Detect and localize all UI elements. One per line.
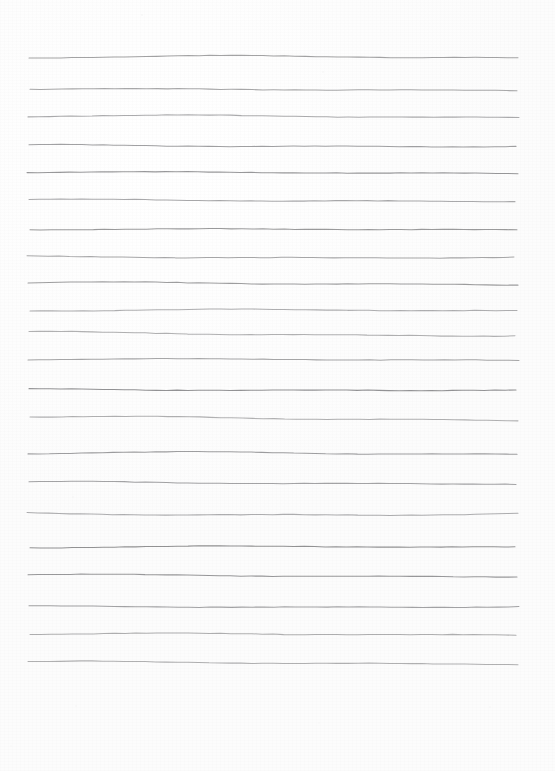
rule-line	[27, 172, 518, 174]
rule-line	[27, 256, 514, 258]
rule-line	[28, 115, 519, 118]
rule-line	[30, 229, 517, 230]
rule-line	[29, 606, 519, 608]
rule-line	[30, 633, 516, 635]
rule-line	[27, 513, 518, 516]
rule-line	[29, 389, 516, 391]
paper-speck	[318, 722, 320, 724]
rule-line	[30, 88, 517, 90]
paper-speck	[141, 14, 143, 16]
rule-line	[30, 546, 515, 548]
paper-speck	[75, 705, 77, 707]
rule-line	[29, 481, 516, 484]
rule-line	[28, 282, 518, 285]
rule-line	[28, 359, 519, 361]
rule-line	[29, 55, 518, 58]
rule-line	[28, 451, 517, 454]
rule-line	[30, 309, 517, 311]
rule-line	[29, 144, 516, 147]
paper-page	[0, 0, 555, 771]
paper-speck	[322, 71, 324, 73]
rule-line	[28, 574, 517, 577]
paper-speck	[72, 496, 74, 498]
paper-speck	[489, 706, 491, 708]
rule-line	[30, 416, 518, 421]
rule-line	[29, 331, 515, 336]
paper-speck	[10, 745, 12, 747]
rule-line	[28, 661, 518, 665]
ruled-lines-layer	[0, 0, 555, 771]
rule-line	[29, 199, 515, 202]
